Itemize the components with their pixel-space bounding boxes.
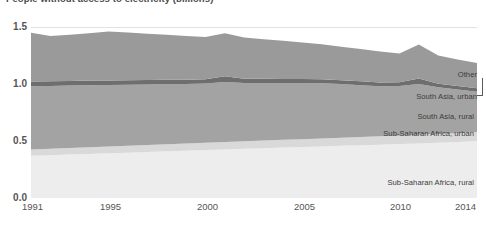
chart-title: People without access to electricity (bi… [6, 0, 213, 4]
stacked-area-svg [31, 27, 477, 198]
x-tick-label: 2014 [455, 201, 476, 212]
x-tick-label: 2005 [294, 201, 315, 212]
chart-container: People without access to electricity (bi… [0, 0, 486, 226]
annotation-south-asia-rural: South Asia, rural [417, 112, 474, 121]
x-tick-label: 2000 [197, 201, 218, 212]
annotation-south-asia-urban: South Asia, urban [416, 92, 477, 101]
annotation-ssa-rural: Sub-Saharan Africa, rural [387, 178, 474, 187]
annotation-other: Other [458, 70, 477, 79]
area-bands [31, 31, 477, 198]
y-axis: 1.5 1.0 0.5 0.0 [0, 0, 27, 226]
x-tick-label: 1991 [22, 201, 43, 212]
x-axis: 1991 1995 2000 2005 2010 2014 [0, 201, 486, 221]
leader-line-vertical [482, 78, 483, 96]
y-tick-label: 1.0 [13, 79, 27, 89]
y-tick-label: 0.5 [13, 136, 27, 146]
plot-area [31, 27, 477, 198]
x-tick-label: 2010 [390, 201, 411, 212]
y-tick-label: 1.5 [13, 22, 27, 32]
x-tick-label: 1995 [100, 201, 121, 212]
annotation-ssa-urban: Sub-Saharan Africa, urban [383, 129, 474, 138]
